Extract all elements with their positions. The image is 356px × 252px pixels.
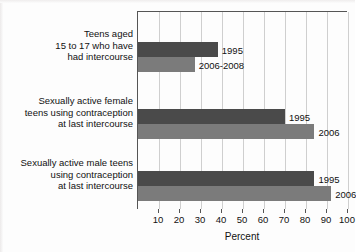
category-label-line: Sexually active male teens	[0, 157, 133, 169]
bar[interactable]	[138, 171, 314, 186]
x-axis-tick	[221, 209, 222, 213]
category-label-line: at last intercourse	[0, 180, 133, 192]
category-label-line: Teens aged	[0, 28, 133, 40]
bar-series-label: 1995	[285, 111, 310, 122]
x-axis-tick-labels: 102030405060708090100	[137, 214, 347, 227]
x-axis-tick-label: 100	[339, 214, 355, 225]
category-label-teens-intercourse: Teens aged 15 to 17 who have had interco…	[0, 28, 133, 63]
x-axis-tick-label: 90	[321, 214, 332, 225]
bar-row: 2006	[138, 124, 347, 139]
bar-row: 1995	[138, 109, 347, 124]
category-label-line: 15 to 17 who have	[0, 40, 133, 52]
x-axis-tick-label: 10	[153, 214, 164, 225]
x-axis-tick	[326, 209, 327, 213]
x-axis-tick	[179, 209, 180, 213]
gridline	[348, 12, 349, 209]
x-axis-tick-label: 30	[195, 214, 206, 225]
bar-series-label: 1995	[218, 44, 243, 55]
bar-series-label: 2006	[314, 126, 339, 137]
bar-groups: 19952006-20081995200619952006	[138, 12, 347, 209]
bar-group: 19952006-2008	[138, 42, 347, 72]
x-axis-tick	[200, 209, 201, 213]
category-label-line: teens using contraception	[0, 107, 133, 119]
bar-row: 2006	[138, 186, 347, 201]
bar-row: 1995	[138, 171, 347, 186]
x-axis-tick-label: 40	[216, 214, 227, 225]
x-axis-tick	[158, 209, 159, 213]
x-axis-tick-label: 70	[279, 214, 290, 225]
category-label-male-contraception: Sexually active male teens using contrac…	[0, 157, 133, 192]
bar[interactable]	[138, 57, 195, 72]
bar[interactable]	[138, 42, 218, 57]
bar[interactable]	[138, 109, 285, 124]
bar-series-label: 2006-2008	[195, 59, 244, 70]
bar[interactable]	[138, 124, 314, 139]
category-label-line: Sexually active female	[0, 95, 133, 107]
x-axis-tick	[263, 209, 264, 213]
category-label-female-contraception: Sexually active female teens using contr…	[0, 95, 133, 130]
x-axis-tick	[284, 209, 285, 213]
bar-series-label: 1995	[314, 173, 339, 184]
bar-row: 1995	[138, 42, 347, 57]
x-axis-title: Percent	[137, 231, 347, 242]
bar-series-label: 2006	[331, 188, 356, 199]
plot-area: 19952006-20081995200619952006	[137, 11, 347, 209]
x-axis-tick-label: 80	[300, 214, 311, 225]
x-axis-tick-label: 50	[237, 214, 248, 225]
x-axis-tick-label: 20	[174, 214, 185, 225]
category-label-line: using contraception	[0, 169, 133, 181]
bar-group: 19952006	[138, 171, 347, 201]
category-label-line: at last intercourse	[0, 118, 133, 130]
category-label-line: had intercourse	[0, 51, 133, 63]
x-axis-tick-label: 60	[258, 214, 269, 225]
bar[interactable]	[138, 186, 331, 201]
x-axis-tick	[347, 209, 348, 213]
x-axis-tick	[242, 209, 243, 213]
bar-group: 19952006	[138, 109, 347, 139]
bar-row: 2006-2008	[138, 57, 347, 72]
x-axis-tick	[305, 209, 306, 213]
